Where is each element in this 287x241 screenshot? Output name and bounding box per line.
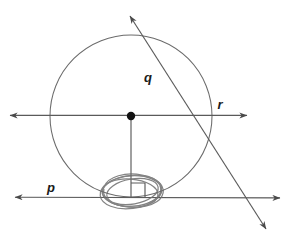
- label-r: r: [217, 97, 223, 112]
- label-q: q: [144, 70, 152, 85]
- circle-center-dot: [127, 112, 135, 120]
- geometry-diagram: p q r: [0, 0, 287, 241]
- label-p: p: [46, 180, 55, 195]
- line-p: [15, 197, 280, 198]
- right-angle-marker: [131, 183, 145, 197]
- geometry-canvas: p q r: [0, 0, 287, 241]
